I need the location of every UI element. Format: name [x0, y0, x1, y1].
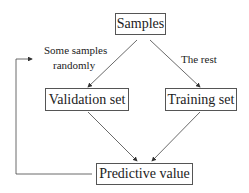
edge-label-the-rest: The rest: [181, 52, 217, 66]
predictive-value-node: Predictive value: [96, 163, 193, 185]
training-set-node: Training set: [165, 88, 237, 111]
predictive-label: Predictive value: [99, 166, 190, 182]
validation-set-node: Validation set: [45, 88, 129, 111]
edge-label-randomly: randomly: [53, 58, 95, 72]
validation-label: Validation set: [49, 92, 126, 108]
samples-label: Samples: [117, 16, 164, 32]
samples-node: Samples: [115, 13, 166, 35]
training-label: Training set: [168, 92, 235, 108]
edge-label-some-samples: Some samples: [44, 43, 107, 57]
